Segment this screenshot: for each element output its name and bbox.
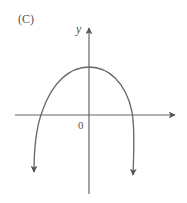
curve — [34, 67, 134, 175]
origin-label: 0 — [78, 119, 84, 131]
y-axis-label: y — [75, 22, 82, 36]
panel-label: (C) — [18, 12, 34, 26]
graph-figure: (C) y 0 — [0, 0, 187, 203]
